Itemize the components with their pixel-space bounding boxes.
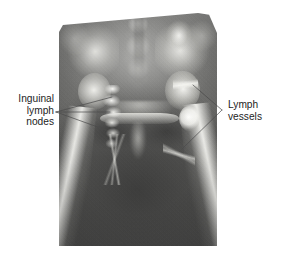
leader-lines bbox=[0, 0, 282, 260]
label-lymph-vessels: Lymph vessels bbox=[228, 99, 280, 122]
leader-lines-inguinal-lymph-nodes bbox=[56, 97, 112, 130]
leader-lines-lymph-vessels bbox=[182, 85, 222, 149]
leader-line-1 bbox=[193, 85, 222, 110]
lymphangiogram-figure: Inguinal lymph nodes Lymph vessels bbox=[0, 0, 282, 260]
leader-line-3 bbox=[56, 112, 106, 130]
label-inguinal-lymph-nodes: Inguinal lymph nodes bbox=[4, 93, 54, 128]
leader-line-1 bbox=[56, 97, 112, 112]
leader-line-2 bbox=[182, 110, 222, 149]
